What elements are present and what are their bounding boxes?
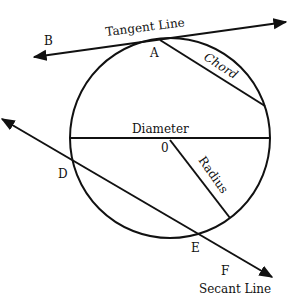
secant-line — [2, 119, 272, 277]
label-tangent-line: Tangent Line — [105, 15, 186, 39]
label-radius: Radius — [196, 154, 231, 196]
circle-diagram: B Tangent Line A Chord Diameter 0 Radius… — [0, 0, 291, 296]
label-point-a: A — [149, 46, 159, 60]
label-point-e: E — [191, 241, 200, 255]
label-secant-line: Secant Line — [199, 282, 271, 296]
label-point-f: F — [221, 264, 229, 278]
label-diameter: Diameter — [132, 122, 189, 136]
label-point-b: B — [44, 34, 53, 48]
chord — [160, 40, 265, 106]
label-point-d: D — [58, 167, 68, 181]
label-center: 0 — [161, 141, 169, 155]
